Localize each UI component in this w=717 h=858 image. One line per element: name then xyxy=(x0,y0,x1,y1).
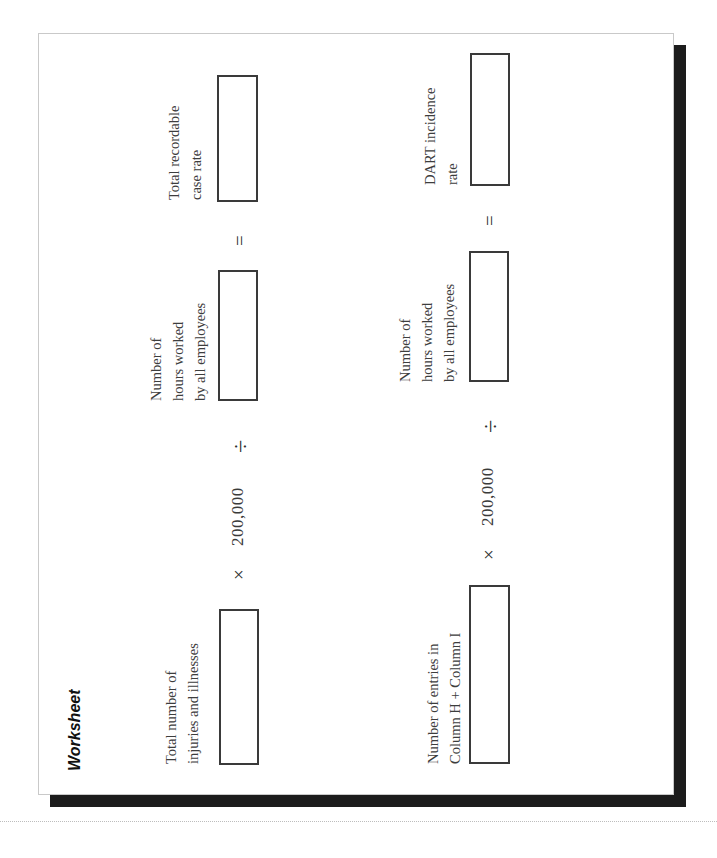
total-recordable-case-rate-box[interactable] xyxy=(217,75,258,202)
divide-symbol: ÷ xyxy=(478,420,502,433)
divide-symbol: ÷ xyxy=(228,440,252,453)
constant-200000: 200,000 xyxy=(479,467,496,526)
hours-worked-label: Number of hours worked by all employees xyxy=(145,303,211,401)
equals-symbol: = xyxy=(230,235,249,246)
label-line: hours worked xyxy=(167,303,189,401)
label-line: Number of entries in xyxy=(422,633,444,764)
column-h-i-entries-label: Number of entries in Column H + Column I xyxy=(422,633,466,764)
label-line: rate xyxy=(441,87,463,185)
label-line: Number of xyxy=(394,284,416,382)
equals-symbol: = xyxy=(480,215,499,226)
label-line: Total number of xyxy=(160,643,182,764)
label-line: Column H + Column I xyxy=(444,633,466,764)
label-line: Number of xyxy=(145,303,167,401)
label-line: injuries and illnesses xyxy=(182,643,204,764)
worksheet-title: Worksheet xyxy=(67,689,83,771)
total-injuries-label: Total number of injuries and illnesses xyxy=(160,643,204,764)
label-line: by all employees xyxy=(438,284,460,382)
label-line: case rate xyxy=(185,106,207,200)
total-recordable-case-rate-label: Total recordable case rate xyxy=(163,106,207,200)
multiply-symbol: × xyxy=(479,549,498,560)
label-line: DART incidence xyxy=(419,87,441,185)
label-line: by all employees xyxy=(189,303,211,401)
constant-200000: 200,000 xyxy=(229,487,246,546)
total-injuries-input-box[interactable] xyxy=(219,609,259,765)
hours-worked-input-box[interactable] xyxy=(469,251,509,382)
dart-incidence-rate-label: DART incidence rate xyxy=(419,87,463,185)
multiply-symbol: × xyxy=(229,569,248,580)
column-h-i-entries-input-box[interactable] xyxy=(469,585,510,764)
hours-worked-input-box[interactable] xyxy=(218,270,258,401)
worksheet-page xyxy=(38,33,674,795)
page-separator xyxy=(0,821,717,822)
dart-incidence-rate-box[interactable] xyxy=(470,53,510,186)
label-line: Total recordable xyxy=(163,106,185,200)
label-line: hours worked xyxy=(416,284,438,382)
hours-worked-label: Number of hours worked by all employees xyxy=(394,284,460,382)
